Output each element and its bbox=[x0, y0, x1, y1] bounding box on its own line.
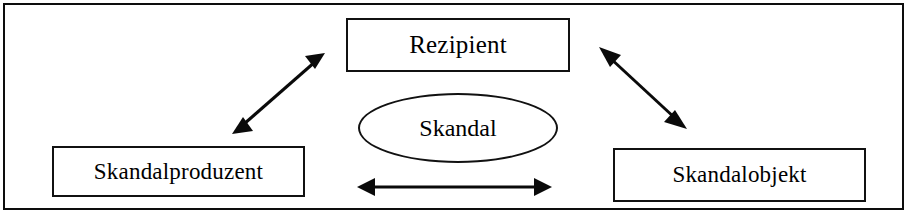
node-skandal-label: Skandal bbox=[419, 115, 496, 142]
node-skandalobjekt-label: Skandalobjekt bbox=[672, 162, 806, 188]
node-skandalproduzent-label: Skandalproduzent bbox=[94, 159, 263, 185]
node-rezipient-label: Rezipient bbox=[409, 31, 507, 59]
node-skandal: Skandal bbox=[358, 93, 558, 163]
node-skandalobjekt: Skandalobjekt bbox=[613, 148, 866, 202]
node-rezipient: Rezipient bbox=[346, 18, 570, 72]
node-skandalproduzent: Skandalproduzent bbox=[52, 146, 305, 197]
diagram-canvas: Rezipient Skandalproduzent Skandalobjekt… bbox=[0, 0, 914, 223]
